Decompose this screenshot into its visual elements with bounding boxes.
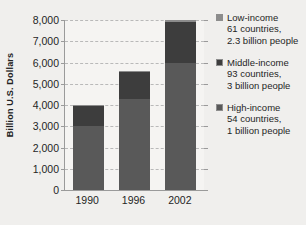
y-axis-tick-right — [204, 148, 208, 149]
legend-entry-header: Low-income — [216, 12, 306, 23]
y-axis-tick-label: 4,000 — [1, 99, 59, 111]
bar-segment — [73, 126, 104, 190]
bar-group — [119, 20, 150, 190]
legend-title: High-income — [227, 102, 280, 113]
y-axis-tick-right — [204, 126, 208, 127]
bar-segment — [119, 71, 150, 72]
bar-segment — [119, 72, 150, 99]
bar-segment — [165, 63, 196, 191]
y-axis-tick-label: 2,000 — [1, 142, 59, 154]
legend-subtitle-population: 3 billion people — [227, 80, 306, 92]
legend-swatch — [216, 59, 223, 66]
legend-entry: Low-income61 countries,2.3 billion peopl… — [216, 12, 306, 46]
y-axis-tick-right — [204, 169, 208, 170]
y-axis-tick — [61, 190, 65, 191]
bar-group — [165, 20, 196, 190]
y-axis-tick-right — [204, 41, 208, 42]
y-axis-tick-label: 6,000 — [1, 57, 59, 69]
y-axis-tick-label: 8,000 — [1, 14, 59, 26]
bars-layer — [65, 20, 204, 190]
bar-segment — [73, 106, 104, 126]
stacked-bar-chart: Billion U.S. Dollars 8,0007,0006,0005,00… — [0, 0, 306, 225]
bar-segment — [165, 20, 196, 22]
y-axis-tick-right — [204, 105, 208, 106]
y-axis-title: Billion U.S. Dollars — [0, 0, 21, 190]
bar-segment — [165, 22, 196, 62]
y-axis-tick-label: 0 — [1, 184, 59, 196]
y-axis-tick-label: 5,000 — [1, 78, 59, 90]
y-axis-tick-right — [204, 84, 208, 85]
legend-title: Low-income — [227, 12, 278, 23]
legend-subtitle-countries: 61 countries, — [227, 23, 306, 35]
legend-title: Middle-income — [227, 57, 289, 68]
bar-segment — [73, 105, 104, 106]
y-axis-tick-label: 1,000 — [1, 163, 59, 175]
bar-group — [73, 20, 104, 190]
y-axis-tick-right — [204, 190, 208, 191]
y-axis-tick-label: 3,000 — [1, 120, 59, 132]
legend-swatch — [216, 104, 223, 111]
legend-entry: Middle-income93 countries,3 billion peop… — [216, 57, 306, 91]
legend-swatch — [216, 14, 223, 21]
legend-entry-header: High-income — [216, 102, 306, 113]
plot-area — [64, 20, 204, 191]
y-axis-tick-right — [204, 63, 208, 64]
x-axis-tick-label: 1996 — [122, 194, 145, 206]
legend-entry-header: Middle-income — [216, 57, 306, 68]
legend-subtitle-countries: 54 countries, — [227, 113, 306, 125]
legend-entry: High-income54 countries,1 billion people — [216, 102, 306, 136]
y-axis-tick-right — [204, 20, 208, 21]
legend-subtitle-population: 1 billion people — [227, 125, 306, 137]
x-axis-tick-label: 1990 — [75, 194, 98, 206]
legend-subtitle-population: 2.3 billion people — [227, 35, 306, 47]
chart-legend: Low-income61 countries,2.3 billion peopl… — [216, 12, 306, 147]
legend-subtitle-countries: 93 countries, — [227, 68, 306, 80]
x-axis-tick-label: 2002 — [168, 194, 191, 206]
y-axis-tick-label: 7,000 — [1, 35, 59, 47]
bar-segment — [119, 99, 150, 190]
